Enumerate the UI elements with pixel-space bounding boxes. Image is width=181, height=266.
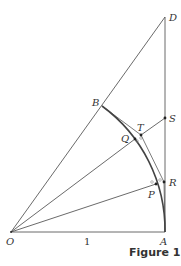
angle-marker xyxy=(159,179,162,182)
label-P: P xyxy=(147,189,155,200)
unit-length-label: 1 xyxy=(84,236,90,247)
label-Q: Q xyxy=(121,133,129,144)
label-B: B xyxy=(91,97,99,108)
label-D: D xyxy=(168,12,177,23)
segment-OP xyxy=(11,184,156,232)
figure-caption: Figure 1 xyxy=(129,246,180,259)
point-S xyxy=(164,117,167,120)
segment-TS xyxy=(141,118,165,135)
point-T xyxy=(140,134,143,137)
segment-OQ xyxy=(11,139,135,232)
point-R xyxy=(163,181,166,184)
point-Q xyxy=(134,138,137,141)
angle-marker xyxy=(151,181,154,184)
angle-marker xyxy=(140,137,143,140)
point-P xyxy=(155,183,158,186)
point-O xyxy=(10,231,12,233)
label-S: S xyxy=(169,113,176,124)
label-T: T xyxy=(137,122,145,133)
label-R: R xyxy=(168,177,177,188)
geometry-figure: D B S T Q R P O A 1 xyxy=(0,0,181,266)
label-O: O xyxy=(6,236,14,247)
